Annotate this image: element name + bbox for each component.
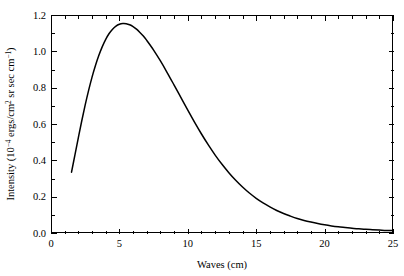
x-axis-tick-label: 15 xyxy=(251,238,262,249)
x-axis-tick-label: 10 xyxy=(183,238,194,249)
x-axis-tick-label: 20 xyxy=(319,238,330,249)
y-axis-tick-label: 1.2 xyxy=(33,10,46,21)
y-axis-title-mid: ergs/cm xyxy=(5,104,16,140)
y-axis-tick-label: 0.2 xyxy=(33,191,46,202)
y-axis-title-lead: Intensity (10 xyxy=(5,147,17,200)
x-axis-tick-label: 25 xyxy=(388,238,399,249)
y-axis-tick-label: 0.8 xyxy=(33,82,46,93)
y-axis-tick-label: 1.0 xyxy=(33,46,46,57)
y-axis-title-close: ) xyxy=(5,47,17,51)
y-axis-tick-label: 0.0 xyxy=(33,228,46,239)
x-axis-tick-label: 0 xyxy=(48,238,53,249)
y-axis-tick-label: 0.4 xyxy=(33,155,47,166)
intensity-vs-waves-chart: 0510152025 0.00.20.40.60.81.01.2 Waves (… xyxy=(0,0,404,276)
x-axis-title: Waves (cm) xyxy=(197,259,248,271)
chart-figure: 0510152025 0.00.20.40.60.81.01.2 Waves (… xyxy=(0,0,404,276)
y-axis-tick-label: 0.6 xyxy=(33,119,46,130)
y-axis-title: Intensity (10−4 ergs/cm2 sr sec cm−1) xyxy=(5,47,17,201)
y-axis-title-tail: sr sec cm xyxy=(5,59,16,101)
x-axis-tick-label: 5 xyxy=(117,238,122,249)
chart-background xyxy=(0,0,404,276)
